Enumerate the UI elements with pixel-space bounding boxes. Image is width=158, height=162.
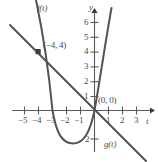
y-tick-label-4: 4	[84, 47, 89, 56]
x-tick-label-neg4: −4	[32, 116, 42, 125]
point-marker-minus4-4	[36, 49, 41, 54]
graph-figure: f(t) g(t) (−4, 4) (0, 0) t y −5 −4 −3 −2…	[0, 0, 158, 162]
x-tick-label-1: 1	[106, 116, 111, 125]
y-tick-label-6: 6	[84, 18, 89, 27]
line-g	[10, 25, 146, 161]
y-tick-label-5: 5	[84, 33, 89, 42]
annotation-point-0-0: (0, 0)	[98, 96, 116, 105]
x-axis-arrow	[150, 107, 155, 113]
y-tick-label-2: 2	[84, 77, 89, 86]
curve-label-f: f(t)	[37, 4, 47, 13]
y-axis-label: y	[89, 3, 93, 12]
y-tick-label-1: 1	[84, 92, 89, 101]
x-axis-label: t	[146, 117, 149, 126]
x-tick-label-neg3: −3	[46, 116, 56, 125]
x-tick-label-neg5: −5	[18, 116, 28, 125]
x-tick-label-neg1: −1	[74, 116, 84, 125]
annotation-point-minus4-4: (−4, 4)	[43, 41, 66, 50]
y-tick-label-3: 3	[84, 62, 89, 71]
curve-label-g: g(t)	[104, 140, 116, 149]
x-tick-label-neg2: −2	[60, 116, 70, 125]
x-tick-label-3: 3	[134, 116, 139, 125]
coordinate-plane	[0, 0, 158, 162]
x-tick-label-2: 2	[120, 116, 125, 125]
y-tick-label-neg2: 2	[85, 135, 90, 144]
